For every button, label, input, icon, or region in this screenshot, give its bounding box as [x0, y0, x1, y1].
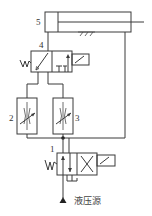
- label-1: 1: [50, 144, 55, 154]
- label-2: 2: [9, 113, 14, 123]
- pipe-v4-to-2: [27, 72, 38, 98]
- label-5: 5: [36, 17, 41, 27]
- throttle-valve-3: [53, 98, 73, 134]
- throttle-valve-2: [17, 98, 37, 134]
- hydraulic-circuit-diagram: 5 4 2: [0, 0, 152, 216]
- label-3: 3: [75, 113, 80, 123]
- valve-4: [20, 51, 89, 72]
- cylinder-5: [45, 12, 144, 36]
- label-source: 液压源: [74, 195, 101, 206]
- pipe-2-to-junction: [27, 134, 63, 138]
- label-4: 4: [39, 40, 44, 50]
- valve-1: [45, 153, 115, 181]
- pressure-source-triangle-icon: [60, 197, 67, 203]
- pipe-v4-to-3: [48, 72, 63, 98]
